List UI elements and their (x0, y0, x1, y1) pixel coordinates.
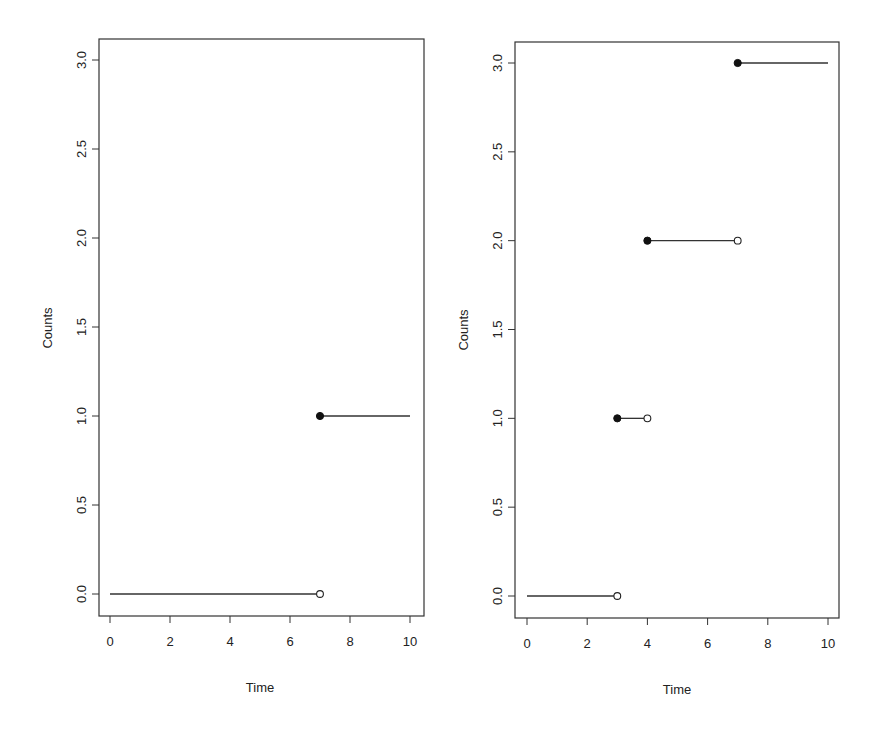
filled-point-marker (316, 412, 323, 419)
open-point-marker (317, 591, 324, 598)
y-axis-label: Counts (456, 309, 471, 351)
y-tick-label: 2.5 (74, 140, 89, 158)
y-tick-label: 1.5 (74, 318, 89, 336)
plot-frame (515, 42, 839, 618)
filled-point-marker (734, 59, 741, 66)
y-tick-label: 0.0 (74, 585, 89, 603)
y-axis: 0.00.51.01.52.02.53.0 (490, 54, 515, 605)
y-tick-label: 2.0 (490, 232, 505, 250)
left-panel: 0.00.51.01.52.02.53.0 0246810 Time Count… (40, 39, 424, 695)
open-point-marker (644, 415, 651, 422)
x-tick-label: 2 (166, 634, 173, 649)
right-panel: 0.00.51.01.52.02.53.0 0246810 Time Count… (456, 42, 839, 697)
x-tick-label: 10 (403, 634, 417, 649)
x-axis-label: Time (663, 682, 691, 697)
y-axis: 0.00.51.01.52.02.53.0 (74, 51, 99, 603)
x-tick-label: 6 (704, 636, 711, 651)
step-series (527, 59, 828, 599)
x-tick-label: 8 (346, 634, 353, 649)
y-tick-label: 3.0 (490, 54, 505, 72)
charts-canvas: 0.00.51.01.52.02.53.0 0246810 Time Count… (0, 0, 886, 731)
x-tick-label: 2 (584, 636, 591, 651)
filled-point-marker (644, 237, 651, 244)
open-point-marker (614, 593, 621, 600)
filled-point-marker (614, 415, 621, 422)
x-axis-label: Time (246, 680, 274, 695)
x-axis: 0246810 (523, 618, 835, 651)
plot-frame (99, 39, 424, 616)
y-tick-label: 0.5 (490, 498, 505, 516)
y-tick-label: 1.5 (490, 320, 505, 338)
open-point-marker (734, 237, 741, 244)
y-tick-label: 0.0 (490, 587, 505, 605)
y-tick-label: 1.0 (74, 407, 89, 425)
y-axis-label: Counts (40, 307, 55, 349)
x-tick-label: 4 (644, 636, 651, 651)
x-tick-label: 4 (226, 634, 233, 649)
x-tick-label: 6 (286, 634, 293, 649)
x-tick-label: 0 (523, 636, 530, 651)
x-tick-label: 10 (821, 636, 835, 651)
step-series (110, 412, 410, 597)
y-tick-label: 2.5 (490, 143, 505, 161)
x-tick-label: 0 (106, 634, 113, 649)
y-tick-label: 2.0 (74, 229, 89, 247)
y-tick-label: 3.0 (74, 51, 89, 69)
y-tick-label: 1.0 (490, 409, 505, 427)
y-tick-label: 0.5 (74, 496, 89, 514)
x-tick-label: 8 (764, 636, 771, 651)
x-axis: 0246810 (106, 616, 417, 649)
